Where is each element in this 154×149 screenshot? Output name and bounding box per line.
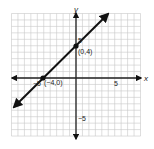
point-x-intercept-label: (−4,0) xyxy=(44,79,62,87)
y-tick-5: 5 xyxy=(78,37,82,44)
y-axis-label: y xyxy=(73,5,79,14)
x-axis-label: x xyxy=(143,74,149,83)
point-y-intercept-label: (0,4) xyxy=(78,48,92,56)
coordinate-graph: x y −5 5 5 −5 (0,4) (−4,0) xyxy=(0,0,154,149)
y-tick-neg5: −5 xyxy=(78,115,86,122)
x-tick-neg5: −5 xyxy=(33,80,41,87)
x-tick-5: 5 xyxy=(114,80,118,87)
plotted-line xyxy=(14,14,108,107)
